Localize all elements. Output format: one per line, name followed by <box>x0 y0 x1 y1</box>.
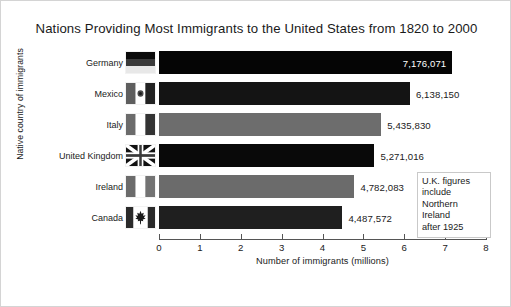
flag-ireland-icon <box>125 175 156 198</box>
x-axis-tick-label: 1 <box>197 242 202 253</box>
x-axis-tick-label: 2 <box>238 242 243 253</box>
bar-value-label: 6,138,150 <box>416 89 460 100</box>
x-axis-label: Number of immigrants (millions) <box>159 256 486 266</box>
bar <box>159 175 354 198</box>
bar <box>159 206 342 229</box>
category-label: Ireland <box>95 182 123 192</box>
category-label: Italy <box>106 120 123 130</box>
category-label: Mexico <box>94 89 123 99</box>
annotation-line: Ireland <box>422 210 486 221</box>
flag-mexico-icon <box>125 82 156 105</box>
bar: 7,176,071 <box>159 51 452 74</box>
annotation-line: include <box>422 187 486 198</box>
flag-united-kingdom-icon <box>125 144 156 167</box>
bar <box>159 113 381 136</box>
flag-italy-icon <box>125 113 156 136</box>
category-label: Germany <box>86 58 123 68</box>
chart-figure: Nations Providing Most Immigrants to the… <box>0 0 511 307</box>
bar-row: United Kingdom5,271,016 <box>1 143 511 169</box>
bar-value-label: 5,435,830 <box>387 120 431 131</box>
flag-canada-icon <box>125 206 156 229</box>
category-label: United Kingdom <box>59 151 123 161</box>
bar-value-label: 4,487,572 <box>348 213 392 224</box>
bar <box>159 144 374 167</box>
bar-value-label: 5,271,016 <box>380 151 424 162</box>
bar-row: Germany7,176,071 <box>1 50 511 76</box>
bar <box>159 82 410 105</box>
annotation-line: U.K. figures <box>422 176 486 187</box>
x-axis-tick-label: 4 <box>320 242 325 253</box>
bar-row: Italy5,435,830 <box>1 112 511 138</box>
x-axis-tick-label: 3 <box>279 242 284 253</box>
category-label: Canada <box>91 213 123 223</box>
annotation-line: after 1925 <box>422 222 486 233</box>
bar-row: Mexico6,138,150 <box>1 81 511 107</box>
x-axis-tick-label: 5 <box>361 242 366 253</box>
x-axis-line <box>159 239 486 240</box>
x-axis-tick-label: 0 <box>156 242 161 253</box>
x-axis-tick-label: 7 <box>442 242 447 253</box>
flag-germany-icon <box>125 51 156 74</box>
x-axis-tick-label: 6 <box>402 242 407 253</box>
annotation-line: Northern <box>422 199 486 210</box>
annotation-note: U.K. figures include Northern Ireland af… <box>417 172 491 238</box>
bar-value-label: 7,176,071 <box>403 57 447 68</box>
bar-value-label: 4,782,083 <box>360 182 404 193</box>
x-axis-tick-label: 8 <box>483 242 488 253</box>
